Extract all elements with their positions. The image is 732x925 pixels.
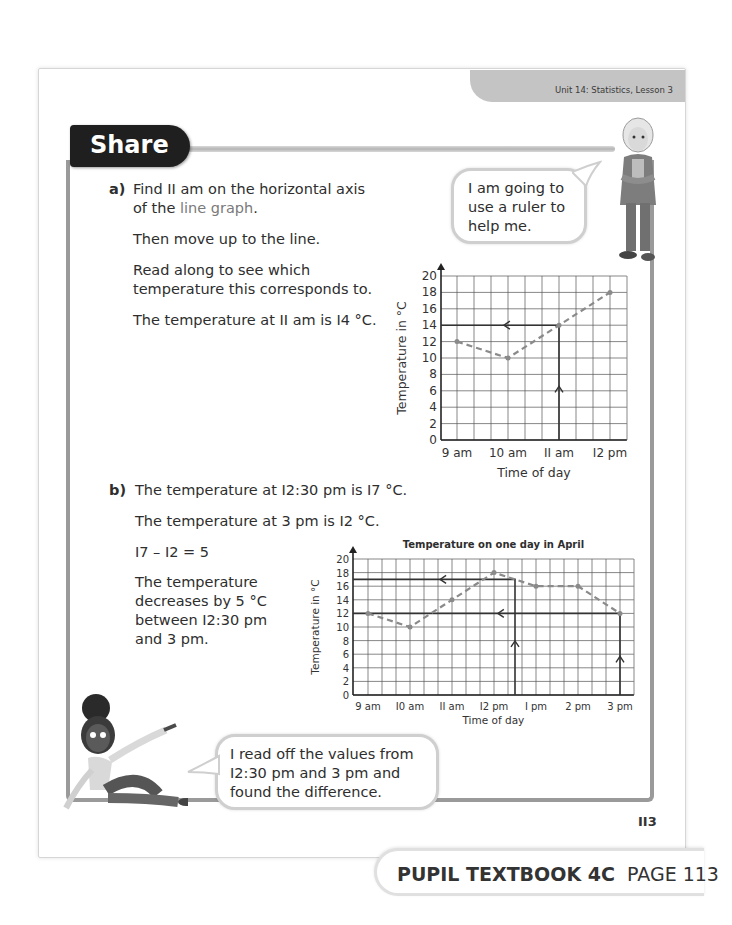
y-tick-label: 14 [336, 595, 349, 606]
unit-label: Unit 14: Statistics, Lesson 3 [555, 85, 673, 95]
unit-header-tab: Unit 14: Statistics, Lesson 3 [470, 70, 685, 102]
girl-speech-bubble: I read off the values from I2:30 pm and … [215, 734, 439, 810]
boy-character-illustration [610, 115, 666, 265]
bubble-tail [186, 752, 220, 778]
y-tick-label: 2 [429, 417, 437, 431]
y-tick-label: 0 [343, 690, 349, 701]
bubble-line: I2:30 pm and 3 pm and [230, 764, 400, 783]
part-b-label: b) [109, 481, 126, 500]
y-tick-label: 18 [422, 285, 437, 299]
y-tick-label: 10 [422, 351, 437, 365]
part-b-line-7: and 3 pm. [135, 630, 209, 649]
data-point [618, 611, 623, 616]
x-tick-label: I pm [525, 701, 547, 712]
data-point [506, 356, 511, 361]
share-badge: Share [70, 125, 190, 167]
y-tick-label: 4 [343, 663, 349, 674]
x-tick-label: II am [544, 446, 574, 460]
bubble-line: use a ruler to [468, 198, 565, 217]
y-tick-label: 8 [429, 367, 437, 381]
page-number: II3 [638, 814, 657, 829]
data-point [557, 323, 562, 328]
read-off-line [353, 579, 515, 695]
y-tick-label: 2 [343, 676, 349, 687]
data-point [366, 611, 371, 616]
x-tick-label: II am [440, 701, 465, 712]
part-a-line-3: Then move up to the line. [133, 230, 320, 249]
x-tick-label: 9 am [442, 446, 473, 460]
part-a-line-1: Find II am on the horizontal axis [133, 180, 365, 199]
x-tick-label: 3 pm [607, 701, 633, 712]
bubble-tail [572, 160, 602, 190]
x-tick-label: I2 pm [593, 446, 627, 460]
y-tick-label: 6 [429, 384, 437, 398]
part-b-line-6: between I2:30 pm [135, 611, 267, 630]
data-point [534, 584, 539, 589]
y-tick-label: 6 [343, 649, 349, 660]
y-axis-label: Temperature in °C [309, 579, 321, 675]
line-graph-a: 024681012141618209 am10 amII amI2 pmTime… [390, 262, 640, 487]
footer-book-title: PUPIL TEXTBOOK 4C [397, 863, 615, 885]
part-b-line-4: The temperature [135, 573, 258, 592]
data-point [576, 584, 581, 589]
bubble-line: I read off the values from [230, 745, 414, 764]
x-tick-label: I0 am [396, 701, 424, 712]
part-a-line-4: Read along to see which [133, 261, 310, 280]
part-a-answer: The temperature at II am is I4 °C. [133, 311, 377, 330]
data-point [455, 339, 460, 344]
data-point [608, 290, 613, 295]
x-axis-label: Time of day [496, 465, 571, 480]
chart-title: Temperature on one day in April [403, 539, 584, 550]
x-tick-label: 9 am [355, 701, 380, 712]
part-b-calculation: I7 – I2 = 5 [135, 543, 209, 562]
bubble-line: help me. [468, 217, 532, 236]
y-tick-label: 18 [336, 568, 349, 579]
line-graph-keyword: line graph [180, 200, 253, 216]
y-tick-label: 16 [422, 302, 437, 316]
part-a-line-5: temperature this corresponds to. [133, 280, 372, 299]
part-b-line-2: The temperature at 3 pm is I2 °C. [135, 512, 380, 531]
y-tick-label: 4 [429, 400, 437, 414]
footer-page-label: PAGE 113 [627, 863, 719, 885]
y-tick-label: 12 [336, 608, 349, 619]
share-header-rule [170, 146, 615, 152]
y-axis-arrowhead [437, 263, 445, 270]
y-axis-arrowhead [349, 546, 357, 553]
bubble-line: found the difference. [230, 783, 382, 802]
x-tick-label: I2 pm [480, 701, 509, 712]
part-b-line-1: The temperature at I2:30 pm is I7 °C. [135, 481, 407, 500]
y-tick-label: 16 [336, 581, 349, 592]
data-point [408, 625, 413, 630]
footer-text: PUPIL TEXTBOOK 4C PAGE 113 [397, 863, 719, 885]
y-tick-label: 8 [343, 636, 349, 647]
y-tick-label: 14 [422, 318, 437, 332]
part-a-line-2: of the line graph. [133, 199, 258, 218]
y-tick-label: 20 [336, 554, 349, 565]
text: . [253, 200, 258, 216]
section-title: Share [90, 131, 169, 159]
y-tick-label: 20 [422, 269, 437, 283]
bubble-line: I am going to [468, 179, 564, 198]
line-graph-b: Temperature on one day in April024681012… [305, 535, 640, 735]
text: of the [133, 200, 180, 216]
x-tick-label: 2 pm [565, 701, 591, 712]
x-tick-label: 10 am [489, 446, 527, 460]
data-point [492, 570, 497, 575]
y-tick-label: 0 [429, 433, 437, 447]
y-tick-label: 12 [422, 335, 437, 349]
y-axis-label: Temperature in °C [394, 301, 409, 416]
part-a-label: a) [109, 180, 125, 199]
girl-character-illustration [58, 690, 188, 815]
x-axis-label: Time of day [462, 714, 525, 726]
y-tick-label: 10 [336, 622, 349, 633]
part-b-line-5: decreases by 5 °C [135, 592, 267, 611]
footer-banner: PUPIL TEXTBOOK 4C PAGE 113 [374, 848, 704, 896]
data-point [450, 597, 455, 602]
boy-speech-bubble: I am going to use a ruler to help me. [451, 168, 587, 244]
